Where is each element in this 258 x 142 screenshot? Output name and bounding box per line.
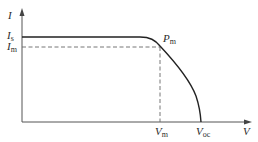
- voc-label: Voc: [196, 126, 210, 139]
- x-axis-arrow-icon: [244, 120, 252, 125]
- im-label: Im: [7, 41, 17, 54]
- iv-curve: [22, 37, 201, 122]
- x-axis-label: V: [243, 126, 250, 137]
- iv-curve-chart: [0, 0, 258, 142]
- y-axis-arrow-icon: [20, 8, 25, 16]
- pm-label: Pm: [163, 33, 176, 46]
- y-axis-label: I: [8, 10, 12, 21]
- vm-label: Vm: [155, 126, 168, 139]
